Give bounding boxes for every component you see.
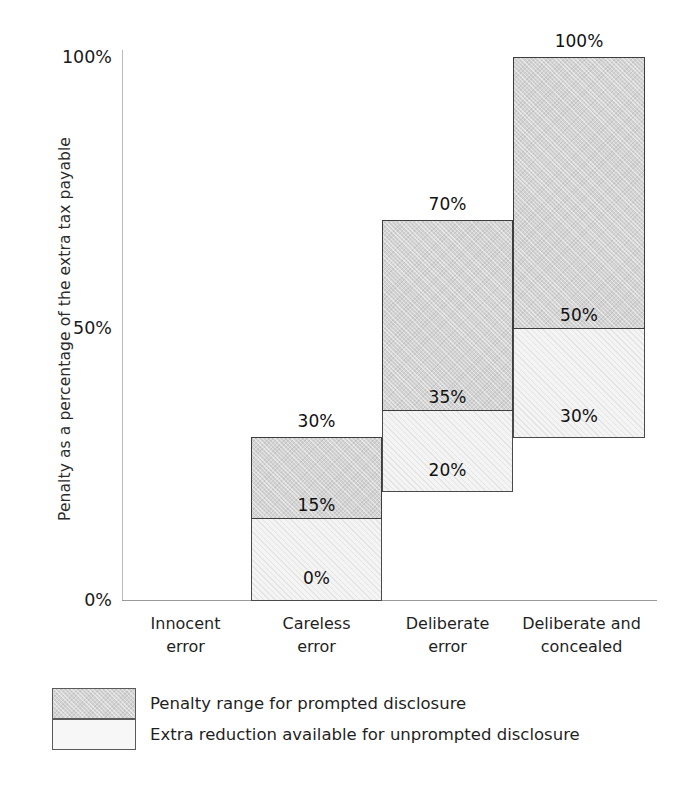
x-label-innocent-error-line2: error (120, 635, 251, 658)
x-label-careless-error-line1: Careless (251, 612, 382, 635)
legend-swatch-unprompted (52, 719, 136, 750)
x-axis-line (122, 600, 657, 601)
bar-careless-mid-label: 15% (251, 495, 382, 515)
y-tick-label-50: 50% (42, 318, 112, 338)
bar-deliberate-mid-label: 35% (382, 387, 513, 407)
y-tick-label-100: 100% (42, 47, 112, 67)
x-label-innocent-error-line1: Innocent (120, 612, 251, 635)
bar-concealed-upper-segment (513, 57, 645, 329)
x-label-deliberate-and-concealed: Deliberate and concealed (509, 612, 654, 658)
bar-careless-lower-segment (251, 518, 382, 601)
bar-concealed-max-label: 100% (513, 31, 645, 51)
legend-swatch-prompted (52, 688, 136, 719)
y-axis-line (122, 50, 123, 601)
legend-swatch-stack (52, 688, 136, 750)
bar-careless-min-label: 0% (251, 568, 382, 588)
chart-legend: Penalty range for prompted disclosure Ex… (52, 688, 652, 754)
bar-concealed-min-label: 30% (513, 406, 645, 426)
x-label-deliberate-error-line1: Deliberate (382, 612, 513, 635)
legend-label-unprompted: Extra reduction available for unprompted… (150, 719, 580, 750)
bar-deliberate-upper-segment (382, 220, 513, 411)
bar-concealed-mid-label: 50% (513, 305, 645, 325)
x-label-deliberate-and-concealed-line1: Deliberate and (509, 612, 654, 635)
x-label-careless-error-line2: error (251, 635, 382, 658)
bar-deliberate-max-label: 70% (382, 194, 513, 214)
x-label-deliberate-error-line2: error (382, 635, 513, 658)
bar-careless-max-label: 30% (251, 411, 382, 431)
legend-label-prompted: Penalty range for prompted disclosure (150, 688, 466, 719)
x-label-careless-error: Careless error (251, 612, 382, 658)
bar-deliberate-min-label: 20% (382, 460, 513, 480)
penalty-bar-chart: Penalty as a percentage of the extra tax… (0, 0, 680, 798)
x-label-deliberate-error: Deliberate error (382, 612, 513, 658)
y-tick-label-0: 0% (42, 590, 112, 610)
x-label-innocent-error: Innocent error (120, 612, 251, 658)
x-label-deliberate-and-concealed-line2: concealed (509, 635, 654, 658)
